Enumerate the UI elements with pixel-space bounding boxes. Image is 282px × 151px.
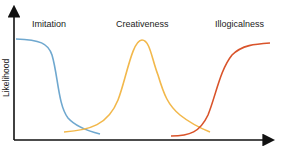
creativeness-label: Creativeness	[116, 19, 169, 29]
imitation-curve	[16, 39, 100, 134]
creativeness-curve	[64, 40, 210, 132]
illogicalness-label: Illogicalness	[215, 19, 264, 29]
illogicalness-curve	[171, 43, 270, 136]
imitation-label: Imitation	[32, 19, 66, 29]
y-axis-label: Likelihood	[1, 59, 11, 97]
